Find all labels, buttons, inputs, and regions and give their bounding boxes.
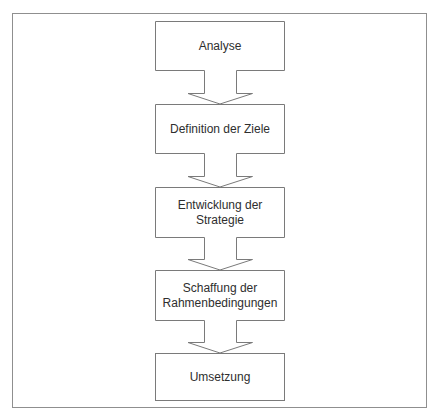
- step-label-analyse: Analyse: [156, 22, 284, 70]
- step-label-entwicklung: Entwicklung der Strategie: [156, 188, 284, 237]
- step-label-schaffung: Schaffung der Rahmenbedingungen: [156, 271, 284, 320]
- step-label-definition: Definition der Ziele: [156, 105, 284, 153]
- step-label-umsetzung: Umsetzung: [156, 354, 284, 400]
